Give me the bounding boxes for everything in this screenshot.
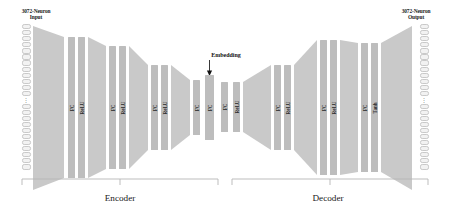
encoder-bracket (22, 179, 218, 185)
encoder-section-label: Encoder (60, 193, 180, 203)
autoencoder-diagram: 3072-Neuron Input ⋮ 3072-Neuron Output ⋮… (0, 0, 451, 218)
section-brackets (0, 0, 451, 218)
decoder-bracket (232, 179, 428, 185)
decoder-section-label: Decoder (268, 193, 388, 203)
